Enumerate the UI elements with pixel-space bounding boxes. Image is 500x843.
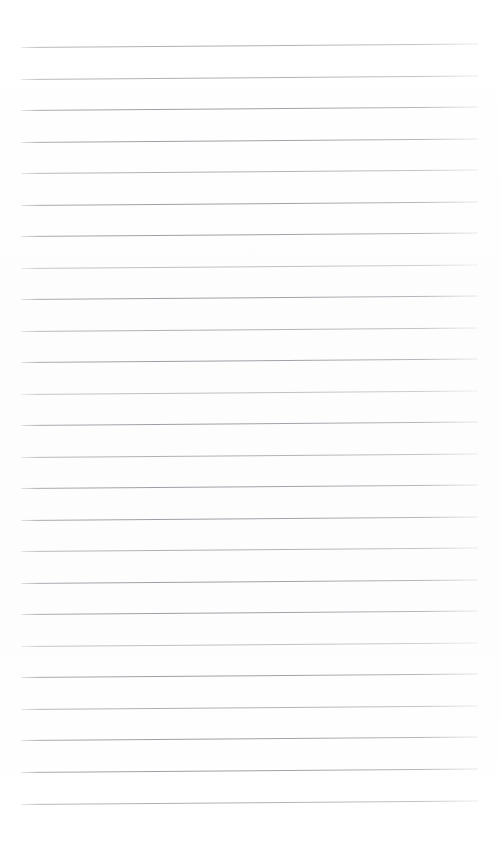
lined-paper-page [0,0,500,843]
writing-area[interactable] [21,30,478,820]
